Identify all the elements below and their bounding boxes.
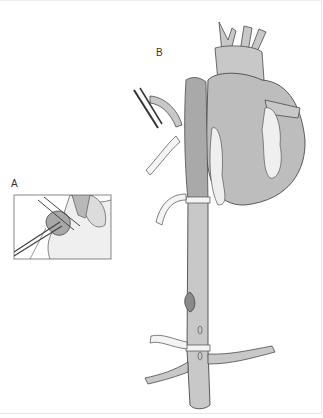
panel-b (134, 22, 305, 409)
inset-a (14, 195, 111, 259)
surgical-illustration (0, 0, 323, 418)
